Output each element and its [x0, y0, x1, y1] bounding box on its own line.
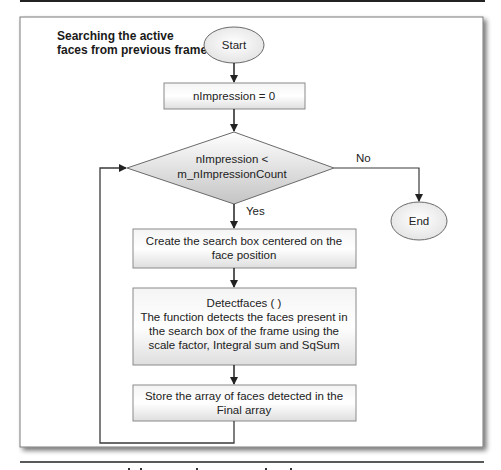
store-line-1: Store the array of faces detected in the	[145, 390, 343, 402]
flowchart-canvas: Searching the active faces from previous…	[0, 0, 501, 470]
create-box-line-2: face position	[212, 249, 277, 261]
init-node: nImpression = 0	[164, 83, 305, 109]
yes-label: Yes	[246, 205, 265, 217]
detect-line-2: The function detects the faces present i…	[140, 311, 347, 323]
title-line-1: Searching the active	[57, 29, 174, 43]
detect-line-1: Detectfaces ( )	[207, 297, 282, 309]
end-node: End	[391, 202, 447, 240]
no-label: No	[356, 152, 371, 164]
end-label: End	[409, 215, 429, 227]
detect-node: Detectfaces ( ) The function detects the…	[133, 288, 356, 365]
init-label: nImpression = 0	[193, 90, 275, 102]
start-node: Start	[204, 27, 264, 63]
detect-line-4: scale factor, Integral sum and SqSum	[148, 339, 339, 351]
store-line-2: Final array	[217, 404, 272, 416]
detect-line-3: the search box of the frame using the	[149, 325, 339, 337]
condition-line-1: nImpression <	[196, 153, 269, 165]
create-box-node: Create the search box centered on the fa…	[133, 229, 356, 268]
title-line-2: faces from previous frame	[57, 43, 207, 57]
condition-line-2: m_nImpressionCount	[177, 168, 287, 180]
create-box-line-1: Create the search box centered on the	[146, 235, 342, 247]
start-label: Start	[222, 39, 247, 51]
store-node: Store the array of faces detected in the…	[133, 385, 356, 421]
